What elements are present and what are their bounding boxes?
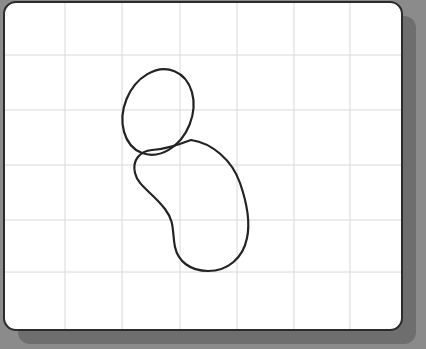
whiteboard-scene[interactable]: [0, 0, 426, 349]
whiteboard-canvas-root: [0, 0, 426, 349]
whiteboard-surface[interactable]: [4, 2, 402, 330]
